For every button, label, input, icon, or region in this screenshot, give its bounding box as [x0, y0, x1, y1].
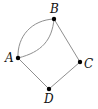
- vertex-a: [16, 56, 20, 60]
- edge-b-c: [54, 19, 80, 62]
- vertex-label-a: A: [4, 51, 14, 65]
- vertex-label-d: D: [43, 92, 54, 106]
- vertex-c: [78, 60, 82, 64]
- vertex-d: [47, 87, 51, 91]
- vertex-label-c: C: [84, 57, 93, 71]
- edge-a-b-lower: [18, 19, 54, 58]
- vertex-label-b: B: [49, 2, 59, 16]
- vertex-b: [52, 17, 56, 21]
- graph-diagram: A B C D: [0, 0, 98, 109]
- edge-d-a: [18, 58, 49, 89]
- edge-c-d: [49, 62, 80, 89]
